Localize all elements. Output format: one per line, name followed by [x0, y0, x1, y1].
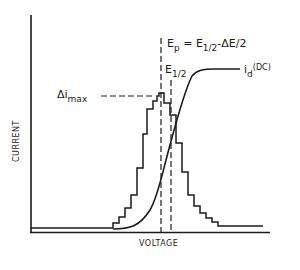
ep-equation-label: Ep = E1/2-ΔE/2	[167, 38, 246, 49]
x-axis-label: VOLTAGE	[139, 240, 178, 248]
e-half-label: E1/2	[165, 64, 186, 75]
y-axis-label: CURRENT	[13, 120, 21, 162]
voltammogram-diagram	[0, 0, 300, 270]
staircase-histogram	[113, 93, 263, 228]
id-dc-label: id(DC)	[244, 64, 271, 75]
dc-sigmoid-curve	[113, 69, 240, 229]
delta-i-max-label: Δimax	[57, 89, 87, 100]
